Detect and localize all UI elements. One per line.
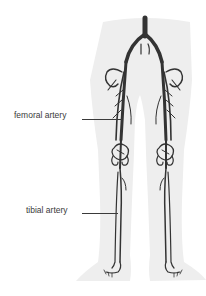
femoral-artery-label: femoral artery xyxy=(14,111,66,120)
femoral-artery-leader-line xyxy=(82,119,122,120)
legs-silhouette xyxy=(76,18,206,281)
tibial-artery-label: tibial artery xyxy=(26,206,68,215)
tibial-artery-leader-line xyxy=(82,213,118,214)
leg-arteries-diagram xyxy=(0,0,206,296)
